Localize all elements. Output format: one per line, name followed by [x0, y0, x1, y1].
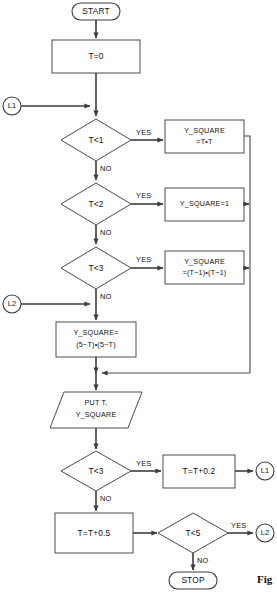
edge-label-yes-1: YES — [136, 128, 151, 137]
edge-label-yes-4: YES — [136, 459, 151, 468]
edge-label-no-1: NO — [100, 164, 112, 173]
node-stop-label: STOP — [181, 575, 205, 585]
connector-in-l2: L2 — [3, 295, 21, 313]
edge-label-no-4: NO — [100, 494, 112, 503]
node-decision-t-lt-5: T<5 — [158, 513, 228, 553]
node-assign-square-tm1: Y_SQUARE =(T−1)•(T−1) — [165, 251, 244, 284]
edge-bus-from-tt — [244, 136, 250, 373]
figure-caption: Fig — [257, 573, 277, 585]
node-output-put-line2: Y_SQUARE — [76, 410, 117, 419]
node-assign-square-tm1-line1: Y_SQUARE — [184, 257, 225, 266]
node-assign-square-tm1-line2: =(T−1)•(T−1) — [183, 268, 227, 277]
node-decision-t-lt-5-label: T<5 — [185, 528, 200, 538]
node-output-put-line1: PUT T, — [85, 398, 108, 407]
node-assign-square-5mt: Y_SQUARE= (5−T)•(5−T) — [56, 322, 136, 357]
node-assign-square-5mt-line2: (5−T)•(5−T) — [76, 340, 115, 349]
edge-label-yes-5: YES — [231, 521, 246, 530]
node-start: START — [72, 3, 120, 20]
node-assign-square-tt-line2: =T•T — [196, 137, 213, 146]
node-decision-t-lt-3b: T<3 — [61, 451, 131, 491]
node-assign-square-tt: Y_SQUARE =T•T — [165, 120, 244, 153]
edge-label-no-5: NO — [197, 556, 209, 565]
connector-out-l1: L1 — [256, 462, 274, 480]
flowchart-canvas: START T=0 L1 T<1 YES NO Y_SQUARE =T•T — [0, 0, 277, 593]
connector-out-l1-label: L1 — [261, 466, 270, 475]
node-decision-t-lt-3a: T<3 — [61, 247, 131, 289]
node-decision-t-lt-2: T<2 — [61, 183, 131, 225]
connector-in-l2-label: L2 — [8, 299, 17, 308]
node-decision-t-lt-3b-label: T<3 — [88, 466, 103, 476]
node-start-label: START — [82, 6, 109, 16]
connector-in-l1-label: L1 — [8, 101, 17, 110]
connector-out-l2: L2 — [256, 524, 274, 542]
node-incr-large-label: T=T+0.5 — [78, 528, 111, 538]
node-decision-t-lt-1: T<1 — [61, 119, 131, 161]
node-incr-small: T=T+0.2 — [163, 455, 235, 488]
node-assign-square-tt-line1: Y_SQUARE — [184, 126, 225, 135]
edge-label-no-2: NO — [100, 228, 112, 237]
node-decision-t-lt-3a-label: T<3 — [88, 263, 103, 273]
node-stop: STOP — [169, 572, 217, 589]
node-incr-small-label: T=T+0.2 — [183, 466, 216, 476]
node-init-label: T=0 — [88, 51, 103, 61]
node-assign-square-one: Y_SQUARE=1 — [165, 188, 244, 221]
node-assign-square-one-line1: Y_SQUARE=1 — [180, 199, 229, 208]
node-assign-square-5mt-line1: Y_SQUARE= — [73, 328, 118, 337]
edge-label-yes-2: YES — [136, 191, 151, 200]
node-decision-t-lt-1-label: T<1 — [88, 135, 103, 145]
edge-label-no-3: NO — [100, 292, 112, 301]
connector-out-l2-label: L2 — [261, 528, 270, 537]
flowchart-svg: START T=0 L1 T<1 YES NO Y_SQUARE =T•T — [0, 0, 277, 593]
edge-label-yes-3: YES — [136, 255, 151, 264]
node-init: T=0 — [52, 40, 140, 73]
node-incr-large: T=T+0.5 — [55, 513, 133, 553]
node-output-put: PUT T, Y_SQUARE — [50, 392, 142, 428]
connector-in-l1: L1 — [3, 97, 21, 115]
node-decision-t-lt-2-label: T<2 — [88, 199, 103, 209]
